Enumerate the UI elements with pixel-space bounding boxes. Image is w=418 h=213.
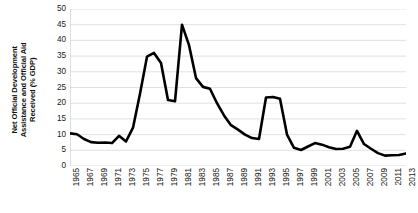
y-axis-title-text: Net Official Development Assistance and … <box>9 43 37 138</box>
gridlines <box>70 9 406 166</box>
x-tick-label-1999: 1999 <box>311 168 319 186</box>
y-tick-label-20: 20 <box>57 99 66 107</box>
y-tick-label-30: 30 <box>57 68 66 76</box>
data-line-series-1 <box>70 25 406 156</box>
x-tick-label-2013: 2013 <box>409 168 417 186</box>
y-tick-label-25: 25 <box>57 83 66 91</box>
y-tick-label-35: 35 <box>57 52 66 60</box>
x-tick-label-1995: 1995 <box>283 168 291 186</box>
x-tick-label-1967: 1967 <box>87 168 95 186</box>
x-tick-label-2007: 2007 <box>367 168 375 186</box>
x-tick-label-1975: 1975 <box>143 168 151 186</box>
x-tick-label-2003: 2003 <box>339 168 347 186</box>
x-axis-tick-labels: 1965196719691971197319751977197919811983… <box>70 168 406 213</box>
y-tick-label-45: 45 <box>57 21 66 29</box>
y-tick-label-15: 15 <box>57 115 66 123</box>
y-tick-label-0: 0 <box>61 162 66 170</box>
x-tick-label-2005: 2005 <box>353 168 361 186</box>
x-tick-label-1987: 1987 <box>227 168 235 186</box>
x-tick-label-1969: 1969 <box>101 168 109 186</box>
x-tick-label-1983: 1983 <box>199 168 207 186</box>
y-tick-label-10: 10 <box>57 130 66 138</box>
y-tick-label-50: 50 <box>57 5 66 13</box>
x-tick-label-1981: 1981 <box>185 168 193 186</box>
y-axis-title: Net Official Development Assistance and … <box>0 0 46 180</box>
x-tick-label-1973: 1973 <box>129 168 137 186</box>
x-tick-label-2009: 2009 <box>381 168 389 186</box>
y-tick-label-5: 5 <box>61 146 66 154</box>
x-tick-label-1997: 1997 <box>297 168 305 186</box>
y-axis-title-line-1: Net Official Development <box>9 43 18 138</box>
y-axis-tick-labels: 50454035302520151050 <box>46 0 68 180</box>
x-tick-label-1989: 1989 <box>241 168 249 186</box>
x-tick-label-1993: 1993 <box>269 168 277 186</box>
plot-area <box>70 9 406 166</box>
x-tick-label-1991: 1991 <box>255 168 263 186</box>
x-tick-label-1985: 1985 <box>213 168 221 186</box>
y-tick-label-40: 40 <box>57 36 66 44</box>
chart-container: Net Official Development Assistance and … <box>0 0 418 213</box>
x-tick-label-1977: 1977 <box>157 168 165 186</box>
x-tick-label-1979: 1979 <box>171 168 179 186</box>
x-tick-label-1965: 1965 <box>73 168 81 186</box>
x-tick-label-2001: 2001 <box>325 168 333 186</box>
plot-svg <box>70 9 406 166</box>
y-axis-title-line-2: Assistance and Official Aid <box>18 43 27 138</box>
x-tick-label-2011: 2011 <box>395 168 403 186</box>
x-tick-label-1971: 1971 <box>115 168 123 186</box>
y-axis-title-line-3: Received (% GDP) <box>28 43 37 138</box>
